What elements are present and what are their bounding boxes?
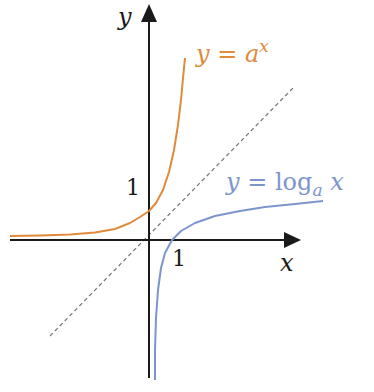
inverse-functions-diagram: y x 1 1 y = ax y = loga x	[0, 0, 374, 392]
logarithm-label-base: a	[312, 180, 322, 200]
x-axis-label: x	[280, 249, 294, 277]
logarithm-label: y = loga x	[225, 168, 344, 200]
x-tick-label-one: 1	[172, 246, 186, 271]
y-axis-label: y	[117, 3, 132, 31]
exponential-label-base: y = a	[195, 40, 259, 68]
identity-line-y-equals-x	[50, 88, 293, 336]
logarithm-label-eq: = log	[240, 168, 313, 196]
exponential-curve	[10, 58, 185, 236]
exponential-label: y = ax	[195, 36, 269, 68]
logarithm-curve	[155, 201, 323, 380]
logarithm-label-arg: x	[323, 168, 345, 196]
y-tick-label-one: 1	[126, 175, 140, 200]
y-axis-arrow-icon	[141, 4, 157, 22]
x-axis-arrow-icon	[284, 232, 301, 248]
exponential-label-exponent: x	[259, 36, 269, 56]
logarithm-label-y: y	[225, 168, 240, 196]
